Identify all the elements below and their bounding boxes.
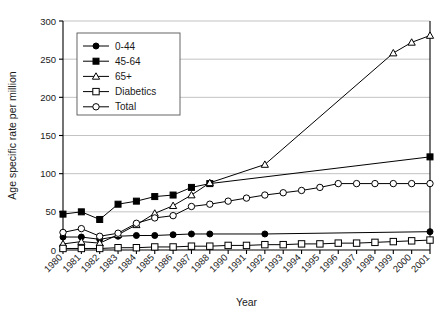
data-point-1993 (280, 190, 286, 196)
marker-open-square (390, 238, 396, 244)
data-point-1982 (97, 245, 103, 251)
line-chart: 0501001502002503001980198119821983198419… (0, 0, 443, 313)
marker-open-square (298, 241, 304, 247)
marker-filled-square (427, 154, 433, 160)
marker-open-square (93, 88, 99, 94)
marker-filled-circle (152, 232, 158, 238)
marker-open-circle (93, 104, 99, 110)
data-point-1994 (298, 187, 304, 193)
marker-filled-square (60, 211, 66, 217)
y-axis-title: Age specific rate per million (6, 71, 18, 200)
data-point-1997 (353, 180, 359, 186)
marker-filled-circle (133, 232, 139, 238)
legend-label: Diabetics (115, 86, 156, 97)
marker-filled-square (93, 58, 99, 64)
y-tick-label-100: 100 (40, 168, 56, 179)
marker-filled-square (115, 201, 121, 207)
x-tick-label-1990: 1990 (207, 252, 230, 275)
marker-open-square (97, 245, 103, 251)
data-point-1987 (188, 191, 195, 197)
marker-open-circle (427, 180, 433, 186)
series-line (63, 184, 430, 237)
marker-open-square (188, 243, 194, 249)
data-point-1992 (262, 192, 268, 198)
data-point-1982 (97, 233, 103, 239)
data-point-1995 (317, 241, 323, 247)
legend-label: 65+ (115, 71, 132, 82)
marker-open-circle (243, 195, 249, 201)
marker-filled-square (170, 192, 176, 198)
marker-open-triangle (390, 49, 397, 55)
x-tick-label-1996: 1996 (317, 252, 340, 275)
marker-open-circle (97, 233, 103, 239)
x-axis-title: Year (236, 296, 258, 308)
marker-open-circle (133, 220, 139, 226)
x-tick-label-1987: 1987 (170, 252, 193, 275)
marker-open-triangle (408, 39, 415, 45)
data-point-1984 (133, 220, 139, 226)
data-point-1993 (280, 241, 286, 247)
marker-open-triangle (188, 191, 195, 197)
y-tick-label-200: 200 (40, 92, 56, 103)
data-point-1990 (225, 198, 231, 204)
data-point-2001 (427, 229, 433, 235)
data-point-2001 (426, 32, 433, 38)
data-point-1996 (335, 240, 341, 246)
marker-open-circle (262, 192, 268, 198)
data-point-1983 (115, 245, 121, 251)
marker-open-square (317, 241, 323, 247)
data-point-1981 (78, 225, 84, 231)
data-point-1990 (225, 242, 231, 248)
marker-filled-square (133, 198, 139, 204)
marker-filled-square (78, 209, 84, 215)
y-tick-label-250: 250 (40, 54, 56, 65)
data-point-1984 (133, 198, 139, 204)
data-point-1984 (133, 232, 139, 238)
data-point-1981 (78, 209, 84, 215)
series-total (60, 180, 433, 239)
data-point-1997 (353, 240, 359, 246)
x-tick-label-1986: 1986 (152, 252, 175, 275)
marker-filled-circle (427, 229, 433, 235)
marker-open-circle (60, 229, 66, 235)
marker-open-circle (298, 187, 304, 193)
marker-open-circle (225, 198, 231, 204)
marker-filled-circle (93, 43, 99, 49)
series-line (63, 157, 430, 220)
data-point-1983 (115, 201, 121, 207)
marker-open-circle (152, 215, 158, 221)
data-point-1980 (60, 229, 66, 235)
data-point-2001 (427, 237, 433, 243)
data-point-1986 (170, 202, 177, 208)
marker-filled-circle (207, 231, 213, 237)
marker-open-square (335, 240, 341, 246)
data-point-1998 (372, 239, 378, 245)
data-point-1985 (152, 194, 158, 200)
marker-filled-circle (170, 232, 176, 238)
marker-filled-square (188, 184, 194, 190)
legend-marker (93, 58, 99, 64)
data-point-1986 (170, 244, 176, 250)
marker-open-circle (353, 180, 359, 186)
x-tick-label-1994: 1994 (280, 252, 303, 275)
data-point-1996 (335, 180, 341, 186)
marker-open-circle (280, 190, 286, 196)
data-point-1994 (298, 241, 304, 247)
marker-open-square (427, 237, 433, 243)
data-point-1985 (152, 244, 158, 250)
x-tick-label-1992: 1992 (244, 252, 267, 275)
data-point-1983 (115, 230, 121, 236)
data-point-1999 (390, 180, 396, 186)
marker-open-triangle (170, 202, 177, 208)
marker-filled-square (97, 216, 103, 222)
data-point-1986 (170, 212, 176, 218)
data-point-2000 (408, 180, 414, 186)
marker-open-square (60, 245, 66, 251)
data-point-2000 (408, 39, 415, 45)
marker-open-square (115, 245, 121, 251)
data-point-1992 (262, 231, 268, 237)
data-point-1985 (152, 215, 158, 221)
legend-marker (93, 88, 99, 94)
x-tick-label-2001: 2001 (409, 252, 432, 275)
data-point-1998 (372, 180, 378, 186)
